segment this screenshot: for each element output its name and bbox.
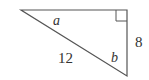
vertical-leg-length-label: 8 xyxy=(135,34,143,50)
right-angle-marker xyxy=(116,10,127,21)
angle-b-label: b xyxy=(111,50,118,65)
angle-a-label: a xyxy=(53,13,60,28)
hypotenuse-length-label: 12 xyxy=(58,50,73,66)
right-triangle-diagram: a 12 b 8 xyxy=(0,0,149,80)
triangle xyxy=(21,10,127,76)
